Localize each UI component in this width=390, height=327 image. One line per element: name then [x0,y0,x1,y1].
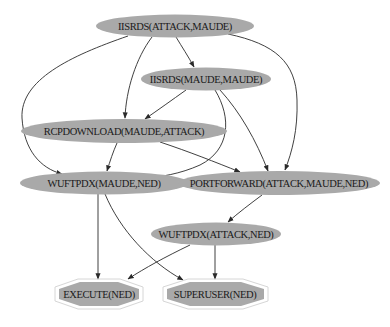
edge-n5-n6 [228,195,262,222]
edge-n2-n3 [145,90,186,119]
node-label: SUPERUSER(NED) [174,289,257,301]
node-label: PORTFORWARD(ATTACK,MAUDE,NED) [190,178,369,190]
node-wuftpdx-attack-ned: WUFTPDX(ATTACK,NED) [151,223,281,246]
node-label: EXECUTE(NED) [63,289,136,301]
node-label: IISRDS(ATTACK,MAUDE) [118,21,233,33]
edge-n1-n5 [228,34,297,170]
node-portforward-attack-maude-ned: PORTFORWARD(ATTACK,MAUDE,NED) [178,171,380,195]
node-label: RCPDOWNLOAD(MAUDE,ATTACK) [44,126,205,138]
edge-n3-n4 [107,143,117,171]
attack-graph-diagram: IISRDS(ATTACK,MAUDE) IISRDS(MAUDE,MAUDE)… [0,0,390,327]
node-wuftpdx-maude-ned: WUFTPDX(MAUDE,NED) [20,172,188,195]
node-label: WUFTPDX(MAUDE,NED) [47,178,161,190]
node-iisrds-attack-maude: IISRDS(ATTACK,MAUDE) [96,15,254,38]
node-label: WUFTPDX(ATTACK,NED) [159,229,275,241]
edge-n1-n4 [22,36,128,174]
edge-n6-n7 [128,245,190,279]
edge-n1-n2 [176,37,194,67]
node-rcpdownload-maude-attack: RCPDOWNLOAD(MAUDE,ATTACK) [21,119,227,143]
node-iisrds-maude-maude: IISRDS(MAUDE,MAUDE) [141,68,271,91]
edges [22,34,297,280]
node-label: IISRDS(MAUDE,MAUDE) [150,74,263,86]
edge-n3-n5 [160,142,240,172]
edge-n2-n5 [220,90,268,171]
node-superuser-ned: SUPERUSER(NED) [163,279,268,309]
node-execute-ned: EXECUTE(NED) [55,279,143,309]
